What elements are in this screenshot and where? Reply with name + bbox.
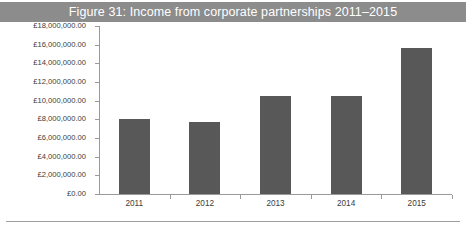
y-axis-label-group: £0.00£2,000,000.00£4,000,000.00£6,000,00…	[0, 26, 92, 194]
figure-container: Figure 31: Income from corporate partner…	[0, 0, 466, 230]
x-axis-tick-label: 2012	[175, 200, 235, 208]
x-axis-tick-label: 2011	[104, 200, 164, 208]
x-axis-tick-label: 2015	[387, 200, 447, 208]
y-axis-tick-label: £18,000,000.00	[0, 22, 86, 30]
y-axis-tick-mark	[95, 175, 99, 176]
x-axis-tick-label: 2013	[246, 200, 306, 208]
y-axis-tick-label: £14,000,000.00	[0, 60, 86, 68]
figure-title: Figure 31: Income from corporate partner…	[69, 6, 397, 19]
y-axis-tick-label: £16,000,000.00	[0, 41, 86, 49]
bar-2013[interactable]	[260, 96, 291, 194]
y-axis-tick-mark	[95, 45, 99, 46]
y-axis-tick-label: £2,000,000.00	[0, 172, 86, 180]
y-axis-tick-mark	[95, 138, 99, 139]
x-axis-tick-mark	[381, 195, 382, 199]
bar-2014[interactable]	[331, 96, 362, 194]
x-axis-tick-label: 2014	[316, 200, 376, 208]
y-axis-tick-label: £4,000,000.00	[0, 153, 86, 161]
y-axis-tick-label: £8,000,000.00	[0, 116, 86, 124]
chart-plot-area: £0.00£2,000,000.00£4,000,000.00£6,000,00…	[0, 26, 466, 212]
y-axis-tick-label: £12,000,000.00	[0, 78, 86, 86]
bar-2012[interactable]	[189, 122, 220, 194]
y-axis-tick-mark	[95, 26, 99, 27]
y-axis-tick-mark	[95, 82, 99, 83]
x-axis-tick-mark	[240, 195, 241, 199]
bar-2015[interactable]	[401, 48, 432, 194]
figure-title-band: Figure 31: Income from corporate partner…	[0, 2, 466, 22]
y-axis-tick-mark	[95, 157, 99, 158]
y-axis-tick-mark	[95, 194, 99, 195]
bar-2011[interactable]	[119, 119, 150, 194]
figure-bottom-rule	[6, 221, 460, 222]
y-axis-tick-label: £0.00	[0, 190, 86, 198]
x-axis-line	[99, 194, 452, 195]
y-axis-tick-mark	[95, 119, 99, 120]
y-axis-tick-mark	[95, 101, 99, 102]
x-axis-tick-mark	[311, 195, 312, 199]
bar-series-layer	[99, 26, 452, 194]
y-axis-tick-label: £10,000,000.00	[0, 97, 86, 105]
x-axis-label-group: 20112012201320142015	[99, 200, 452, 214]
y-axis-tick-label: £6,000,000.00	[0, 134, 86, 142]
y-axis-tick-mark	[95, 63, 99, 64]
x-axis-tick-mark	[170, 195, 171, 199]
x-axis-tick-mark	[452, 195, 453, 199]
